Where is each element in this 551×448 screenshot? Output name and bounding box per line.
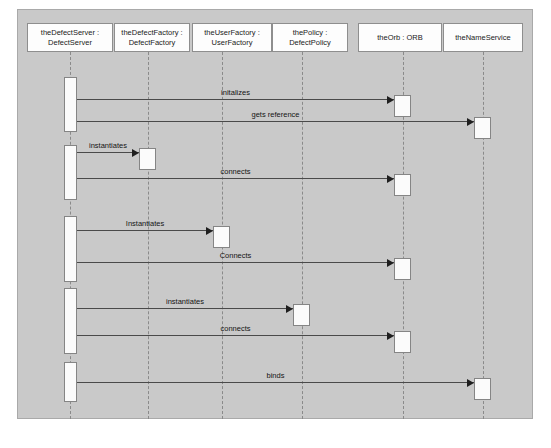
arrow-head-icon xyxy=(387,96,394,104)
lifeline-label-line2: DefectFactory xyxy=(129,38,176,48)
lifeline-label-line1: theUserFactory : xyxy=(204,28,259,38)
activation-bar[interactable] xyxy=(64,362,77,402)
target-activation-box[interactable] xyxy=(394,95,411,117)
target-activation-box[interactable] xyxy=(474,378,491,400)
activation-bar[interactable] xyxy=(64,216,77,282)
target-activation-box[interactable] xyxy=(139,148,156,170)
lifeline-nameservice xyxy=(483,52,484,419)
lifeline-head-defectserver[interactable]: theDefectServer :DefectServer xyxy=(27,23,113,52)
target-activation-box[interactable] xyxy=(474,117,491,139)
lifeline-head-defectfactory[interactable]: theDefectFactory :DefectFactory xyxy=(114,23,190,52)
activation-bar[interactable] xyxy=(64,288,77,354)
arrow-head-icon xyxy=(467,379,474,387)
message-arrow[interactable] xyxy=(77,308,293,309)
message-label: instantiates xyxy=(89,141,127,150)
message-arrow[interactable] xyxy=(77,152,139,153)
lifeline-label-line1: theNameService xyxy=(455,33,510,43)
message-label: gets reference xyxy=(252,110,300,119)
arrow-head-icon xyxy=(387,175,394,183)
lifeline-label-line2: DefectPolicy xyxy=(289,38,331,48)
message-arrow[interactable] xyxy=(77,262,394,263)
arrow-head-icon xyxy=(286,305,293,313)
message-arrow[interactable] xyxy=(77,121,474,122)
message-label: Connects xyxy=(220,251,252,260)
target-activation-box[interactable] xyxy=(394,174,411,196)
lifeline-defectfactory xyxy=(148,52,149,419)
lifeline-label-line2: UserFactory xyxy=(212,38,253,48)
target-activation-box[interactable] xyxy=(293,304,310,326)
sequence-diagram: theDefectServer :DefectServertheDefectFa… xyxy=(0,0,551,448)
message-arrow[interactable] xyxy=(77,178,394,179)
arrow-head-icon xyxy=(467,118,474,126)
lifeline-label-line1: thePolicy : xyxy=(293,28,328,38)
activation-bar[interactable] xyxy=(64,77,77,132)
target-activation-box[interactable] xyxy=(394,331,411,353)
message-label: Instantiates xyxy=(126,219,164,228)
lifeline-label-line1: theDefectServer : xyxy=(41,28,99,38)
arrow-head-icon xyxy=(206,227,213,235)
lifeline-head-orb[interactable]: theOrb : ORB xyxy=(358,23,442,52)
message-label: connects xyxy=(220,167,250,176)
arrow-head-icon xyxy=(132,149,139,157)
message-arrow[interactable] xyxy=(77,230,213,231)
diagram-canvas: theDefectServer :DefectServertheDefectFa… xyxy=(17,9,533,419)
message-arrow[interactable] xyxy=(77,335,394,336)
lifeline-label-line2: DefectServer xyxy=(48,38,92,48)
lifeline-head-policy[interactable]: thePolicy :DefectPolicy xyxy=(272,23,348,52)
arrow-head-icon xyxy=(387,332,394,340)
lifeline-label-line1: theOrb : ORB xyxy=(377,33,422,43)
message-label: instantiates xyxy=(166,297,204,306)
target-activation-box[interactable] xyxy=(213,226,230,248)
message-arrow[interactable] xyxy=(77,382,474,383)
message-label: binds xyxy=(267,371,285,380)
lifeline-label-line1: theDefectFactory : xyxy=(121,28,182,38)
lifeline-policy xyxy=(302,52,303,419)
message-label: connects xyxy=(220,324,250,333)
message-label: initalizes xyxy=(221,88,250,97)
arrow-head-icon xyxy=(387,259,394,267)
lifeline-head-userfactory[interactable]: theUserFactory :UserFactory xyxy=(192,23,272,52)
message-arrow[interactable] xyxy=(77,99,394,100)
target-activation-box[interactable] xyxy=(394,258,411,280)
activation-bar[interactable] xyxy=(64,145,77,200)
lifeline-head-nameservice[interactable]: theNameService xyxy=(443,23,523,52)
